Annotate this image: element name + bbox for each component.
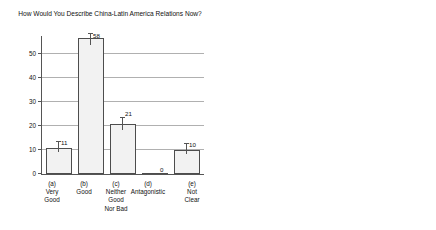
bar-value-c: 21	[125, 110, 132, 117]
category-e-line3: Clear	[170, 196, 214, 204]
left-ytick-0: 0	[22, 170, 36, 177]
left-ytick-mark-40	[38, 77, 41, 78]
left-ytick-mark-0	[38, 173, 41, 174]
category-c-line3: Good	[94, 196, 138, 204]
left-ytick-50: 50	[22, 50, 36, 57]
bar-value-a: 11	[61, 139, 67, 146]
category-label-e: (e) Not Clear	[170, 180, 214, 205]
bar-b[interactable]	[78, 38, 104, 174]
category-label-d: (d) Antagonistic	[122, 180, 174, 196]
bar-value-d: 0	[160, 166, 163, 173]
errorbar-b	[90, 34, 91, 45]
bar-d[interactable]	[142, 173, 168, 174]
left-bar-chart: How Would You Describe China-Latin Ameri…	[0, 0, 218, 230]
errorbar-e	[186, 144, 187, 154]
left-ytick-mark-10	[38, 149, 41, 150]
category-d-line2: Antagonistic	[122, 188, 174, 196]
bar-value-e: 10	[189, 141, 196, 148]
left-plot-area	[42, 38, 202, 174]
bar-c[interactable]	[110, 124, 136, 174]
left-x-axis	[41, 174, 204, 175]
left-ytick-40: 40	[22, 74, 36, 81]
left-ytick-10: 10	[22, 146, 36, 153]
right-stacked-bar-chart: (a) (b) (c) (d) (e)	[218, 0, 436, 230]
left-ytick-mark-20	[38, 125, 41, 126]
bar-a[interactable]	[46, 148, 72, 174]
left-ytick-20: 20	[22, 122, 36, 129]
bar-e[interactable]	[174, 150, 200, 174]
bar-value-b: 58	[93, 32, 100, 39]
left-chart-title: How Would You Describe China-Latin Ameri…	[14, 9, 206, 19]
category-c-line4: Nor Bad	[94, 205, 138, 213]
left-ytick-mark-50	[38, 53, 41, 54]
category-e-line2: Not	[170, 188, 214, 196]
category-d-line1: (d)	[122, 180, 174, 188]
errorbar-cap-c	[120, 117, 125, 118]
errorbar-a	[58, 142, 59, 152]
charts-figure: How Would You Describe China-Latin Ameri…	[0, 0, 436, 230]
left-ytick-mark-30	[38, 101, 41, 102]
left-ytick-30: 30	[22, 98, 36, 105]
category-a-line3: Good	[30, 196, 74, 204]
errorbar-c	[122, 118, 123, 130]
category-e-line1: (e)	[170, 180, 214, 188]
